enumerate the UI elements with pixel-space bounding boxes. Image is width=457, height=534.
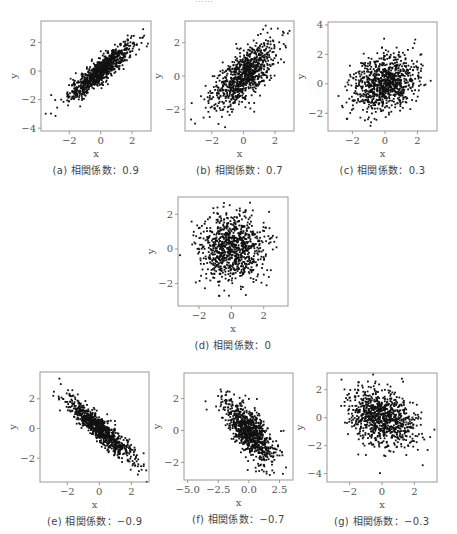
x-axis-label: x [237,148,243,159]
y-axis-label: y [152,73,163,80]
data-points [205,389,287,476]
panel-caption-d: (d) 相関係数：0 [195,337,272,352]
y-axis-label: y [8,73,19,80]
y-tick-label: 2 [167,209,173,220]
x-axis-label: x [230,323,236,334]
panel-caption-b: (b) 相関係数：0.7 [196,162,283,177]
y-tick-label: −4 [21,123,36,134]
y-axis-label: y [295,73,306,80]
y-tick-label: −2 [307,440,322,451]
scatter-panel-c: −202−2024xy [328,22,437,131]
y-tick-label: 0 [174,71,180,82]
x-tick-label: 2 [261,310,267,321]
scatter-panel-d: −202−202xy [178,197,288,306]
y-tick-label: 0 [173,425,179,436]
scatter-panel-f: −5.0−2.50.02.5−202xy [184,373,293,480]
x-tick-label: −2 [192,310,207,321]
x-axis-label: x [380,148,386,159]
x-tick-label: −2 [62,135,77,146]
x-tick-label: −2 [204,135,219,146]
y-tick-label: 4 [317,19,323,30]
x-tick-label: 2 [129,135,135,146]
x-tick-label: 2 [414,135,420,146]
x-tick-label: −2 [342,486,357,497]
x-tick-label: 0 [240,135,246,146]
y-axis-label: y [151,423,162,430]
x-tick-label: 0.0 [241,484,257,495]
y-tick-label: 0 [29,423,35,434]
plot-frame [327,373,437,482]
y-tick-label: 2 [30,37,36,48]
x-tick-label: 2 [128,486,134,497]
scatter-panel-e: −202−202xy [40,372,149,482]
scatter-plot-area: −202−2024xy [328,22,437,131]
y-tick-label: 0 [317,78,323,89]
x-tick-label: −2.5 [206,484,230,495]
x-tick-label: 0 [96,486,102,497]
scatter-panel-g: −202−4−202xy [327,373,437,482]
y-tick-label: 0 [30,66,36,77]
page-header-fragment: …… [195,0,445,4]
y-tick-label: 2 [317,49,323,60]
panel-caption-e: (e) 相関係数：−0.9 [47,513,142,528]
x-tick-label: 0 [98,135,104,146]
scatter-plot-area: −202−202xy [178,197,288,306]
panel-caption-f: (f) 相関係数：−0.7 [192,511,285,526]
data-points [45,28,149,117]
y-tick-label: 0 [167,243,173,254]
y-tick-label: 2 [29,393,35,404]
y-tick-label: −2 [158,278,173,289]
y-tick-label: −2 [20,453,35,464]
panel-caption-g: (g) 相関係数：−0.3 [334,513,430,528]
x-tick-label: 0 [228,310,234,321]
scatter-panel-b: −202−202xy [185,21,294,131]
y-tick-label: −2 [165,104,180,115]
scatter-plot-area: −202−202xy [40,372,149,482]
data-points [340,374,435,474]
y-axis-label: y [294,424,305,431]
y-axis-label: y [145,248,156,255]
y-tick-label: 2 [173,393,179,404]
data-points [52,378,147,483]
y-tick-label: 0 [316,412,322,423]
x-axis-label: x [92,499,98,510]
x-tick-label: 2 [411,486,417,497]
scatter-panel-a: −202−4−202xy [41,21,151,131]
data-points [179,202,277,297]
panel-caption-a: (a) 相関係数：0.9 [53,162,140,177]
scatter-plot-area: −202−4−202xy [327,373,437,482]
scatter-plot-area: −202−4−202xy [41,21,151,131]
y-tick-label: −2 [164,457,179,468]
y-tick-label: −4 [307,468,322,479]
x-tick-label: 2.5 [272,484,288,495]
data-points [190,25,290,128]
y-tick-label: −2 [21,94,36,105]
x-axis-label: x [93,148,99,159]
x-tick-label: 0 [382,135,388,146]
x-axis-label: x [236,497,242,508]
data-points [338,38,432,127]
scatter-plot-area: −202−202xy [185,21,294,131]
panel-caption-c: (c) 相関係数：0.3 [340,162,426,177]
x-axis-label: x [379,499,385,510]
scatter-plot-area: −5.0−2.50.02.5−202xy [184,373,293,480]
x-tick-label: −5.0 [176,484,200,495]
x-tick-label: 2 [272,135,278,146]
x-tick-label: −2 [345,135,360,146]
y-tick-label: 2 [174,37,180,48]
x-tick-label: 0 [379,486,385,497]
y-tick-label: 2 [316,384,322,395]
y-tick-label: −2 [308,108,323,119]
y-axis-label: y [7,424,18,431]
x-tick-label: −2 [60,486,75,497]
